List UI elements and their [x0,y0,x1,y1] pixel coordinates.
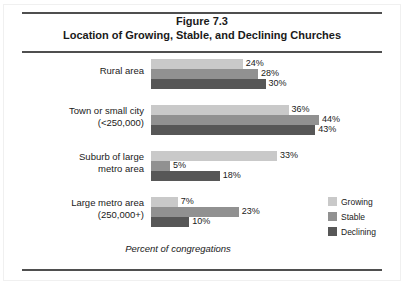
bar-declining [151,171,220,181]
category-label: Town or small city(<250,000) [8,105,144,129]
category-label-line: Large metro area [8,197,144,209]
bar-declining [151,217,189,227]
legend-label: Growing [341,197,373,207]
bar-stable [151,161,170,171]
figure-number: Figure 7.3 [22,14,382,28]
bar-growing [151,105,289,115]
bar-value-label: 30% [269,78,287,89]
bar-declining [151,79,266,89]
figure-title: Figure 7.3 Location of Growing, Stable, … [22,14,382,42]
category-label-line: Rural area [8,65,144,77]
legend-swatch-icon [328,197,337,206]
category-label: Large metro area(250,000+) [8,197,144,221]
legend-item: Growing [328,194,376,209]
category-label-line: Suburb of large [8,151,144,163]
bar-growing [151,59,243,69]
bar-growing [151,197,178,207]
chart-group: Town or small city(<250,000)36%44%43% [0,102,404,144]
category-label: Suburb of largemetro area [8,151,144,175]
legend-item: Stable [328,209,376,224]
legend-label: Stable [341,212,365,222]
category-label: Rural area [8,65,144,77]
bar-value-label: 7% [181,196,194,207]
bar-value-label: 43% [318,124,336,135]
legend-item: Declining [328,224,376,239]
legend-swatch-icon [328,227,337,236]
bar-stable [151,115,319,125]
category-label-line: Town or small city [8,105,144,117]
figure-title-text: Location of Growing, Stable, and Declini… [22,28,382,42]
x-axis-caption: Percent of congregations [0,243,356,254]
bar-value-label: 10% [192,216,210,227]
bar-stable [151,69,258,79]
category-label-line: (250,000+) [8,209,144,221]
title-rule-bottom [22,51,382,53]
chart-group: Rural area24%28%30% [0,56,404,98]
chart-group: Suburb of largemetro area33%5%18% [0,148,404,190]
bar-value-label: 5% [173,160,186,171]
bar-value-label: 33% [280,150,298,161]
legend-label: Declining [341,227,376,237]
bar-growing [151,151,277,161]
category-label-line: metro area [8,163,144,175]
bar-value-label: 36% [292,104,310,115]
bar-value-label: 18% [223,170,241,181]
category-label-line: (<250,000) [8,117,144,129]
bar-value-label: 23% [242,206,260,217]
figure-rule-bottom [22,269,382,271]
figure-container: Figure 7.3 Location of Growing, Stable, … [0,0,404,285]
legend-swatch-icon [328,212,337,221]
chart-legend: GrowingStableDeclining [328,194,376,239]
bar-declining [151,125,315,135]
